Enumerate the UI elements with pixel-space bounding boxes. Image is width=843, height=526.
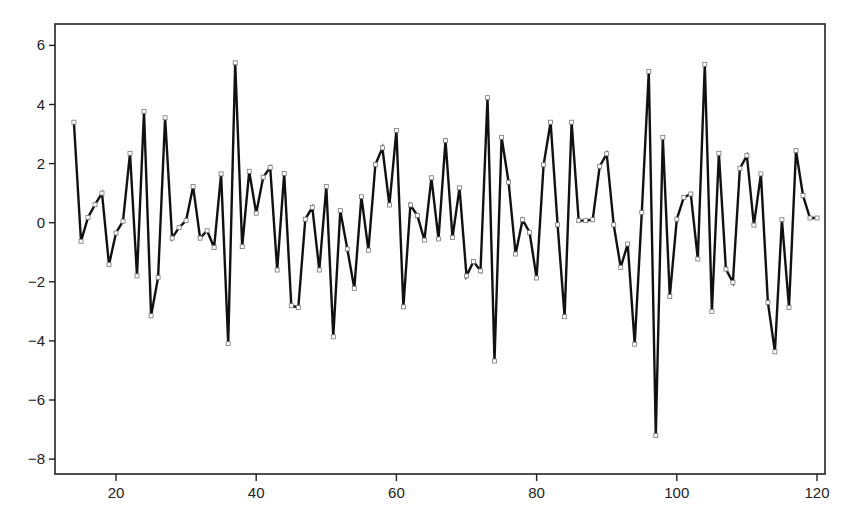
data-point-marker: [780, 218, 784, 222]
data-point-marker: [556, 223, 560, 227]
x-tick-label: 100: [664, 484, 689, 501]
data-point-marker: [282, 171, 286, 175]
data-point-marker: [521, 218, 525, 222]
data-point-marker: [177, 225, 181, 229]
data-point-marker: [310, 205, 314, 209]
data-point-marker: [170, 236, 174, 240]
y-tick-label: 0: [37, 214, 45, 231]
data-point-marker: [415, 214, 419, 218]
y-tick-label: 4: [37, 96, 45, 113]
data-point-marker: [429, 176, 433, 180]
data-point-marker: [633, 342, 637, 346]
data-point-marker: [717, 151, 721, 155]
data-point-marker: [345, 247, 349, 251]
data-point-marker: [801, 194, 805, 198]
data-point-marker: [163, 116, 167, 120]
y-tick-label: 2: [37, 155, 45, 172]
data-point-marker: [619, 265, 623, 269]
data-point-marker: [226, 342, 230, 346]
data-point-marker: [142, 109, 146, 113]
data-point-marker: [219, 172, 223, 176]
data-point-marker: [254, 211, 258, 215]
data-point-marker: [303, 217, 307, 221]
data-point-marker: [563, 315, 567, 319]
data-point-marker: [114, 231, 118, 235]
data-point-marker: [626, 242, 630, 246]
x-tick-label: 60: [388, 484, 405, 501]
data-point-marker: [724, 267, 728, 271]
y-tick-label: −8: [28, 450, 45, 467]
line-chart: 6420−2−4−6−8 20406080100120: [0, 0, 843, 526]
data-point-marker: [444, 139, 448, 143]
data-point-marker: [422, 238, 426, 242]
data-point-marker: [156, 275, 160, 279]
data-point-marker: [493, 359, 497, 363]
data-point-marker: [689, 192, 693, 196]
data-point-marker: [654, 434, 658, 438]
data-point-marker: [380, 146, 384, 150]
data-point-marker: [542, 163, 546, 167]
data-point-marker: [149, 314, 153, 318]
data-point-marker: [387, 203, 391, 207]
data-point-marker: [745, 154, 749, 158]
chart-canvas: 6420−2−4−6−8 20406080100120: [0, 0, 843, 526]
data-point-marker: [184, 219, 188, 223]
data-point-marker: [773, 350, 777, 354]
data-point-marker: [373, 163, 377, 167]
data-point-marker: [401, 305, 405, 309]
data-point-marker: [135, 274, 139, 278]
data-point-marker: [486, 96, 490, 100]
x-tick-label: 120: [804, 484, 829, 501]
data-point-marker: [359, 195, 363, 199]
data-point-marker: [366, 248, 370, 252]
data-point-marker: [661, 135, 665, 139]
data-point-marker: [591, 218, 595, 222]
x-tick-label: 80: [528, 484, 545, 501]
data-point-marker: [331, 335, 335, 339]
data-point-marker: [598, 164, 602, 168]
data-point-marker: [261, 175, 265, 179]
x-tick-label: 40: [248, 484, 265, 501]
data-point-marker: [296, 306, 300, 310]
data-point-marker: [696, 257, 700, 261]
data-point-marker: [121, 219, 125, 223]
data-point-marker: [324, 184, 328, 188]
data-point-marker: [437, 237, 441, 241]
data-point-marker: [465, 274, 469, 278]
data-point-marker: [605, 152, 609, 156]
data-series: [72, 61, 819, 438]
x-axis: 20406080100120: [108, 474, 830, 501]
data-point-marker: [317, 268, 321, 272]
data-point-marker: [289, 304, 293, 308]
data-point-marker: [100, 191, 104, 195]
data-point-marker: [212, 246, 216, 250]
data-point-marker: [507, 180, 511, 184]
data-point-marker: [451, 236, 455, 240]
data-point-marker: [514, 252, 518, 256]
data-point-marker: [394, 129, 398, 133]
data-point-marker: [233, 61, 237, 65]
data-point-marker: [549, 120, 553, 124]
data-point-marker: [191, 184, 195, 188]
data-point-marker: [752, 223, 756, 227]
data-point-marker: [458, 186, 462, 190]
data-point-marker: [612, 223, 616, 227]
data-point-marker: [794, 149, 798, 153]
data-point-marker: [682, 195, 686, 199]
series-line: [74, 63, 817, 436]
data-point-marker: [731, 280, 735, 284]
data-point-marker: [640, 210, 644, 214]
data-point-marker: [528, 231, 532, 235]
data-point-marker: [338, 209, 342, 213]
data-point-marker: [815, 216, 819, 220]
data-point-marker: [93, 203, 97, 207]
data-point-marker: [275, 268, 279, 272]
y-tick-label: 6: [37, 36, 45, 53]
data-point-marker: [107, 263, 111, 267]
data-point-marker: [72, 120, 76, 124]
data-point-marker: [198, 236, 202, 240]
data-point-marker: [584, 219, 588, 223]
y-axis: 6420−2−4−6−8: [28, 36, 55, 467]
data-point-marker: [647, 69, 651, 73]
data-point-marker: [500, 135, 504, 139]
